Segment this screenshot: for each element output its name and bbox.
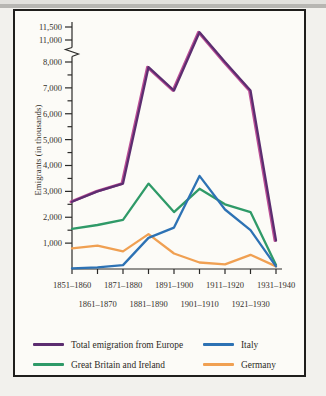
legend-label-italy: Italy xyxy=(241,340,258,350)
legend-swatch-italy xyxy=(203,343,234,346)
y-tick-label: 7,000 xyxy=(43,83,62,93)
x-tick-label: 1901–1910 xyxy=(180,299,218,309)
legend-item-great-britain-ireland: Great Britain and Ireland xyxy=(33,358,165,371)
legend-item-italy: Italy xyxy=(203,338,258,351)
legend-label-great-britain-ireland: Great Britain and Ireland xyxy=(71,360,165,370)
x-tick-label: 1931–1940 xyxy=(257,280,295,290)
y-axis-break-mark xyxy=(66,48,79,57)
y-tick-label: 8,000 xyxy=(43,57,62,67)
legend-label-total-emigration: Total emigration from Europe xyxy=(71,340,183,350)
y-tick-label: 1,000 xyxy=(43,238,62,248)
legend-item-total-emigration: Total emigration from Europe xyxy=(33,338,183,351)
series-line-germany xyxy=(72,234,276,266)
x-tick-label: 1891–1900 xyxy=(155,280,193,290)
emigration-line-chart: 1,0002,0003,0004,0005,0006,0007,0008,000… xyxy=(0,0,326,396)
x-tick-label: 1911–1920 xyxy=(206,280,244,290)
legend-label-germany: Germany xyxy=(241,360,276,370)
x-tick-label: 1881–1890 xyxy=(129,299,167,309)
legend-swatch-great-britain-ireland xyxy=(33,363,64,366)
figure-page: 1,0002,0003,0004,0005,0006,0007,0008,000… xyxy=(0,0,326,396)
legend-swatch-total-emigration xyxy=(33,343,64,346)
x-tick-label: 1921–1930 xyxy=(231,299,269,309)
y-tick-label: 5,000 xyxy=(43,135,62,145)
y-tick-label: 11,000 xyxy=(39,35,62,45)
x-tick-label: 1851–1860 xyxy=(53,280,91,290)
series-line-total-emigration-from-europe xyxy=(72,32,276,240)
legend-item-germany: Germany xyxy=(203,358,276,371)
y-axis-title: Emigrants (in thousands) xyxy=(33,104,43,195)
y-tick-label: 3,000 xyxy=(43,186,62,196)
legend-swatch-germany xyxy=(203,363,234,366)
y-tick-label: 11,500 xyxy=(39,22,62,32)
x-tick-label: 1861–1870 xyxy=(78,299,116,309)
y-tick-label: 2,000 xyxy=(43,212,62,222)
y-tick-label: 6,000 xyxy=(43,109,62,119)
x-tick-label: 1871–1880 xyxy=(104,280,142,290)
y-tick-label: 4,000 xyxy=(43,160,62,170)
